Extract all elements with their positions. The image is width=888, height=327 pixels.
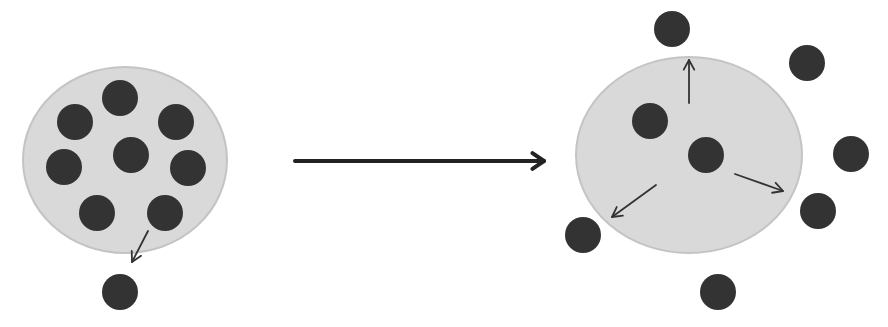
particle-dot [632, 103, 668, 139]
diffusion-diagram [0, 0, 888, 327]
particle-dot [158, 104, 194, 140]
particle-dot [57, 104, 93, 140]
before-panel [23, 67, 227, 310]
particle-dot [113, 137, 149, 173]
particle-dot [688, 137, 724, 173]
particle-dot [833, 136, 869, 172]
particle-dot [147, 195, 183, 231]
particle-dot [654, 11, 690, 47]
after-panel [565, 11, 869, 310]
particle-dot [170, 150, 206, 186]
particle-dot [565, 217, 601, 253]
particle-dot [79, 195, 115, 231]
transition-arrow [295, 153, 544, 169]
particle-dot [700, 274, 736, 310]
particle-dot [789, 45, 825, 81]
particle-dot [102, 274, 138, 310]
particle-dot [46, 149, 82, 185]
particle-dot [800, 193, 836, 229]
main-arrow [295, 153, 544, 169]
particle-dot [102, 80, 138, 116]
